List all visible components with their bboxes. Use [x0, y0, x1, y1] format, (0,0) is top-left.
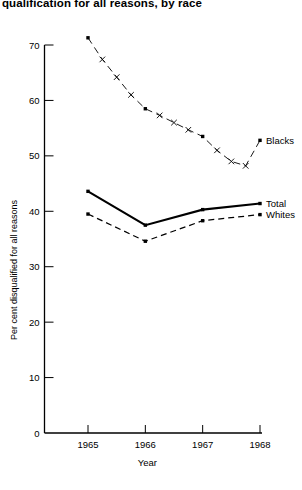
data-point-x-marker — [171, 120, 177, 126]
series-line-blacks — [88, 38, 260, 166]
y-axis-tick-label: 30 — [29, 261, 40, 272]
data-point-blacks — [201, 135, 204, 138]
data-point-x-marker — [243, 163, 249, 169]
y-axis-tick-label: 10 — [29, 372, 40, 383]
data-point-x-marker — [229, 159, 235, 165]
data-point-whites — [144, 240, 147, 243]
y-axis-title: Per cent disqualified for all reasons — [9, 199, 19, 340]
data-point-x-marker — [157, 113, 163, 119]
data-point-whites — [258, 213, 261, 216]
chart-plot-area: 0102030405060701965196619671968YearPer c… — [0, 0, 302, 490]
series-line-total — [88, 191, 260, 225]
data-point-x-marker — [100, 57, 106, 63]
chart-figure: qualification for all reasons, by race 0… — [0, 0, 302, 490]
data-point-blacks — [86, 36, 89, 39]
data-point-whites — [86, 212, 89, 215]
data-point-x-marker — [214, 148, 220, 154]
data-point-x-marker — [186, 127, 192, 133]
data-point-x-marker — [114, 74, 120, 80]
data-point-total — [201, 208, 204, 211]
data-point-total — [144, 223, 147, 226]
data-point-total — [258, 202, 261, 205]
y-axis-tick-label: 20 — [29, 317, 40, 328]
y-axis-tick-label: 0 — [34, 428, 39, 439]
x-axis-tick-label: 1966 — [135, 439, 156, 450]
x-axis-tick-label: 1965 — [77, 439, 98, 450]
legend-label-total: Total — [266, 198, 286, 209]
x-axis-title: Year — [138, 457, 157, 468]
data-point-blacks — [258, 139, 261, 142]
data-point-total — [86, 190, 89, 193]
y-axis-tick-label: 50 — [29, 150, 40, 161]
x-axis-tick-label: 1967 — [192, 439, 213, 450]
y-axis-tick-label: 40 — [29, 206, 40, 217]
y-axis-tick-label: 70 — [29, 40, 40, 51]
legend-label-blacks: Blacks — [266, 135, 294, 146]
x-axis-tick-label: 1968 — [249, 439, 270, 450]
data-point-whites — [201, 219, 204, 222]
data-point-x-marker — [128, 92, 134, 98]
data-point-blacks — [144, 107, 147, 110]
legend-label-whites: Whites — [266, 209, 295, 220]
y-axis-tick-label: 60 — [29, 95, 40, 106]
